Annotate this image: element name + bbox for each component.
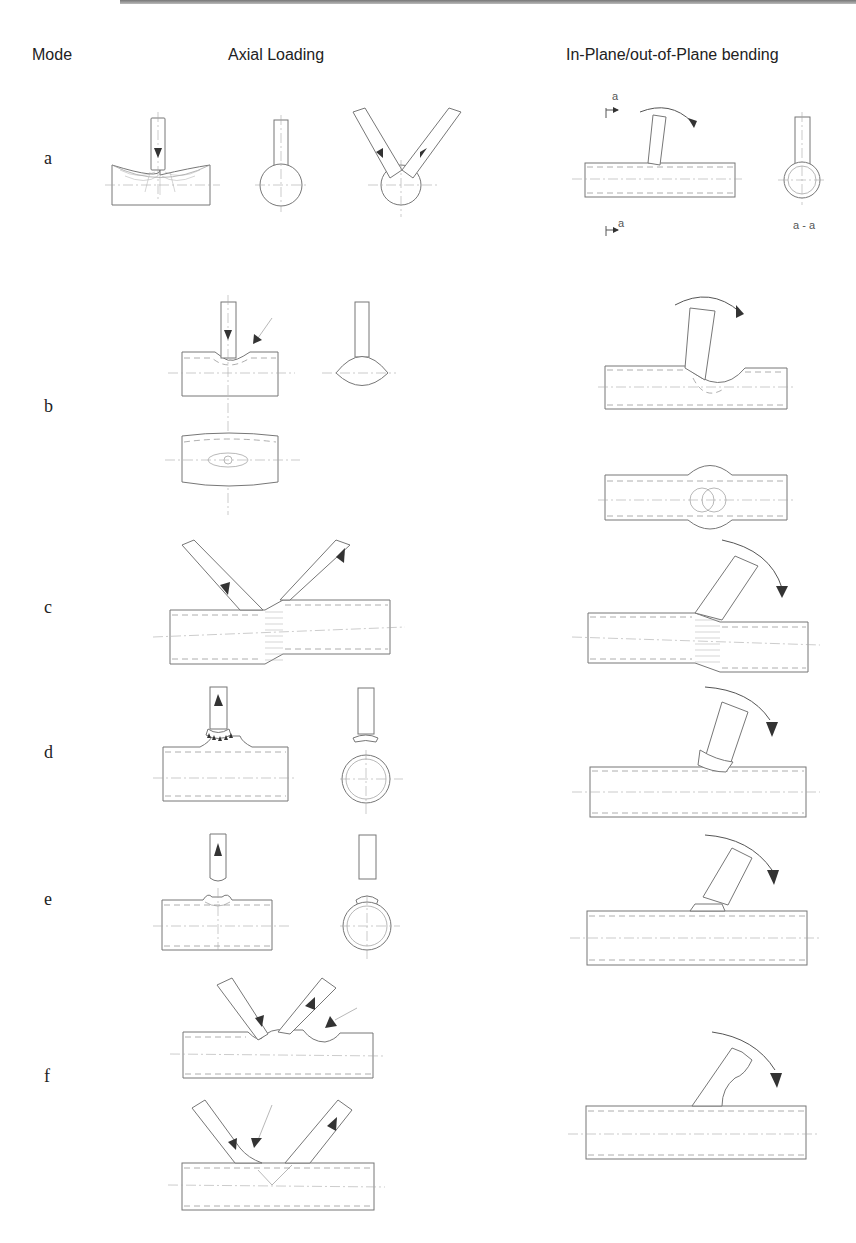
rotation-arrow-icon <box>688 118 697 128</box>
mode-a-bending-section <box>778 112 826 205</box>
arrow-pointer-icon <box>251 1138 262 1148</box>
mode-d-bending-punching <box>572 687 820 817</box>
mode-a-axial-k-joint <box>353 108 461 217</box>
mode-a-axial-section <box>255 115 308 212</box>
rotation-arrow-icon <box>776 586 788 598</box>
mode-f-axial-local-buckling-chord <box>170 978 385 1078</box>
rotation-arrow-icon <box>770 1073 782 1088</box>
mode-c-axial-shear <box>153 540 405 664</box>
mode-f-axial-local-buckling-brace <box>168 1100 385 1210</box>
rotation-arrow-icon <box>736 305 744 318</box>
arrow-pointer-icon <box>253 334 262 344</box>
arrow-pointer-icon <box>325 1016 337 1028</box>
failure-modes-diagram <box>0 0 856 1243</box>
mode-b-bending-plastification <box>598 297 796 529</box>
mode-d-axial-section <box>340 688 403 815</box>
mode-c-bending-shear <box>572 540 820 672</box>
mode-e-axial-section <box>340 835 400 960</box>
mode-f-bending-local-buckling <box>568 1032 820 1159</box>
mode-e-bending-weld-failure <box>570 835 820 965</box>
mode-b-axial-section <box>322 302 396 386</box>
mode-d-axial-punching <box>153 687 295 801</box>
mode-b-axial-plastification <box>165 295 300 515</box>
mode-a-bending-t-joint <box>572 107 742 236</box>
mode-e-axial-weld-failure <box>153 834 290 950</box>
rotation-arrow-icon <box>767 870 779 885</box>
mode-a-axial-t-joint <box>105 112 220 205</box>
rotation-arrow-icon <box>766 722 778 737</box>
